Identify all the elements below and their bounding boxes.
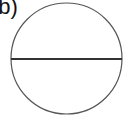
figure-canvas: (b) bbox=[0, 0, 127, 123]
circle-diagram bbox=[0, 0, 127, 123]
